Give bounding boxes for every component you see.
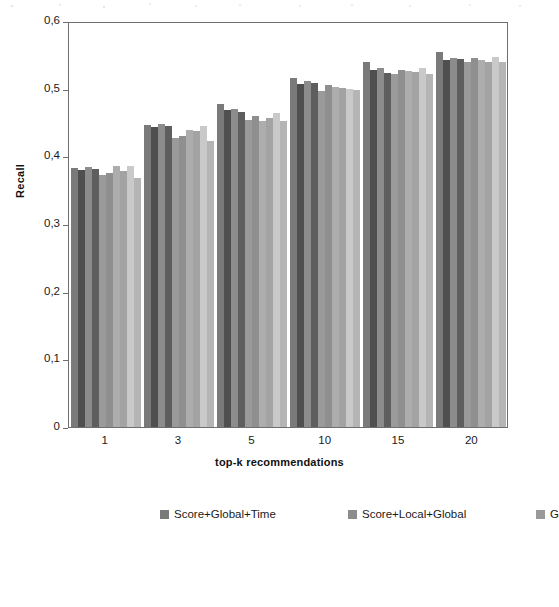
- bar: [280, 121, 287, 427]
- bar: [363, 62, 370, 427]
- bar: [120, 171, 127, 427]
- bar: [485, 62, 492, 427]
- bar: [92, 169, 99, 427]
- legend-label: Score+Global+Time: [174, 506, 276, 523]
- x-tick-label: 1: [75, 434, 135, 446]
- x-tick-label: 10: [295, 434, 355, 446]
- bar: [391, 74, 398, 427]
- bar: [172, 138, 179, 427]
- bar: [144, 125, 151, 427]
- x-tick-label: 3: [148, 434, 208, 446]
- legend: Score+Global+TimeScore+Local+GlobalGloba…: [160, 506, 520, 523]
- legend-swatch: [348, 510, 357, 519]
- bar: [464, 62, 471, 427]
- y-tick-label: 0,4: [20, 149, 60, 161]
- y-tick-label: 0,6: [20, 14, 60, 26]
- bar-cluster: [436, 23, 506, 427]
- bar: [332, 87, 339, 427]
- bar: [99, 175, 106, 427]
- bar: [273, 113, 280, 427]
- bars-layer: [69, 23, 507, 427]
- plot-area: [68, 22, 508, 428]
- bar: [426, 74, 433, 427]
- legend-item: Global+Time-sensitive: [536, 506, 559, 523]
- bar: [85, 167, 92, 427]
- bar: [443, 60, 450, 427]
- bar: [492, 57, 499, 427]
- bar: [419, 68, 426, 427]
- recall-bar-chart-figure: Recall 00,10,20,30,40,50,6 135101520 top…: [0, 0, 559, 607]
- bar: [346, 89, 353, 427]
- bar: [339, 88, 346, 427]
- bar: [158, 124, 165, 427]
- bar: [384, 73, 391, 427]
- bar: [231, 109, 238, 427]
- bar: [377, 68, 384, 427]
- y-tick-label: 0,2: [20, 285, 60, 297]
- legend-swatch: [536, 510, 545, 519]
- legend-label: Global+Time-sensitive: [550, 506, 559, 523]
- x-axis-title: top-k recommendations: [0, 456, 559, 468]
- x-tick-label: 5: [221, 434, 281, 446]
- bar-cluster: [290, 23, 360, 427]
- y-tick-label: 0: [20, 420, 60, 432]
- bar-cluster: [144, 23, 214, 427]
- bar: [151, 127, 158, 427]
- y-tick-mark: [63, 428, 68, 429]
- bar: [134, 178, 141, 427]
- bar: [186, 130, 193, 427]
- bar: [127, 166, 134, 427]
- bar: [252, 116, 259, 427]
- legend-label: Score+Local+Global: [362, 506, 466, 523]
- bar: [353, 90, 360, 427]
- bar: [471, 58, 478, 427]
- bar: [405, 71, 412, 427]
- bar: [436, 52, 443, 427]
- bar: [398, 70, 405, 427]
- bar: [318, 91, 325, 427]
- y-axis-title: Recall: [14, 164, 26, 198]
- bar: [259, 121, 266, 427]
- x-tick-label: 20: [441, 434, 501, 446]
- x-tick-label: 15: [368, 434, 428, 446]
- bar: [311, 83, 318, 427]
- bar: [113, 166, 120, 427]
- bar: [224, 110, 231, 427]
- bar: [304, 81, 311, 427]
- bar: [412, 72, 419, 427]
- bar: [207, 141, 214, 427]
- legend-item: Score+Local+Global: [348, 506, 520, 523]
- bar: [499, 62, 506, 427]
- bar-cluster: [363, 23, 433, 427]
- y-tick-label: 0,1: [20, 352, 60, 364]
- bar: [450, 58, 457, 427]
- bar: [245, 120, 252, 427]
- legend-swatch: [160, 510, 169, 519]
- bar: [193, 131, 200, 427]
- bar: [325, 85, 332, 427]
- y-tick-label: 0,5: [20, 82, 60, 94]
- bar: [200, 126, 207, 427]
- bar: [71, 168, 78, 427]
- bar: [370, 70, 377, 427]
- y-tick-label: 0,3: [20, 217, 60, 229]
- bar: [78, 170, 85, 427]
- bar-cluster: [217, 23, 287, 427]
- bar: [179, 136, 186, 427]
- bar: [165, 126, 172, 427]
- bar-cluster: [71, 23, 141, 427]
- bar: [217, 104, 224, 427]
- bar: [238, 112, 245, 427]
- bar: [106, 173, 113, 427]
- bar: [297, 84, 304, 427]
- bar: [266, 118, 273, 427]
- bar: [290, 78, 297, 427]
- legend-item: Score+Global+Time: [160, 506, 332, 523]
- bar: [478, 60, 485, 427]
- bar: [457, 59, 464, 427]
